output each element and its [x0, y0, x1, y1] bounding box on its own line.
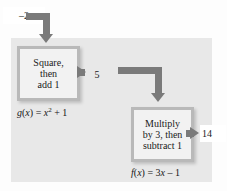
diagram-canvas: –2 Square, then add 1 g(x) = x2 + 1 5 Mu… — [0, 0, 227, 191]
process-box-g-line-1: Square, — [33, 57, 63, 68]
formula-g-tail: + 1 — [52, 107, 68, 118]
process-box-multiply-by-three-body: Multiply by 3, then subtract 1 — [134, 110, 191, 159]
formula-g-equals: = — [33, 107, 44, 118]
process-box-square-then-add-one: Square, then add 1 — [17, 46, 80, 101]
formula-f-equals: = 3 — [145, 167, 161, 178]
arrow-value-to-f-vertical — [155, 67, 162, 94]
output-value-chip: 14 — [200, 125, 226, 142]
formula-g: g(x) = x2 + 1 — [17, 106, 67, 118]
arrow-input-to-g-head-icon — [39, 34, 53, 43]
arrow-input-to-g-vertical — [43, 13, 50, 35]
intermediate-value-chip: 5 — [86, 66, 108, 82]
process-box-multiply-by-three-subtract-one: Multiply by 3, then subtract 1 — [131, 107, 194, 162]
arrow-g-to-value-head-icon — [77, 66, 86, 78]
output-value-label: 14 — [202, 128, 212, 139]
process-box-f-line-3: subtract 1 — [143, 140, 182, 151]
intermediate-value-label: 5 — [95, 69, 100, 80]
process-box-f-line-2: by 3, then — [143, 129, 183, 140]
process-box-g-line-2: then — [40, 68, 57, 79]
formula-f: f(x) = 3x – 1 — [131, 167, 180, 178]
arrow-value-to-f-head-icon — [151, 93, 165, 102]
process-box-f-line-1: Multiply — [145, 118, 180, 129]
formula-f-tail: – 1 — [165, 167, 180, 178]
process-box-g-line-3: add 1 — [38, 79, 60, 90]
process-box-square-then-add-one-body: Square, then add 1 — [20, 49, 77, 98]
arrow-f-to-output-head-icon — [190, 127, 199, 139]
